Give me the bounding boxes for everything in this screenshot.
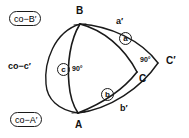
vertex-label-b: B — [76, 6, 83, 16]
boxed-label-co-b-prime-text: co−B′ — [14, 14, 36, 24]
side-label-a-prime: a′ — [116, 17, 123, 26]
angle-label-outer-90: 90° — [140, 56, 151, 63]
spherical-triangle-figure: B A C C′ a′ b′ a b c 90° 90° co−c′ co−B′… — [0, 0, 189, 138]
boxed-label-co-a-prime-text: co−A′ — [15, 115, 37, 125]
boxed-label-co-b-prime: co−B′ — [9, 11, 41, 26]
arc-outer-lower-b-prime — [78, 63, 158, 113]
side-label-b-prime: b′ — [120, 104, 128, 113]
vertex-label-a: A — [75, 120, 82, 130]
angle-label-inner-90: 90° — [72, 65, 83, 72]
arc-b-to-c — [80, 24, 137, 72]
vertex-label-c-prime: C′ — [166, 56, 176, 66]
label-co-c-prime: co−c′ — [8, 62, 31, 71]
circled-label-a: a — [119, 32, 132, 45]
circled-label-c: c — [57, 63, 70, 76]
boxed-label-co-a-prime: co−A′ — [10, 112, 42, 127]
circled-label-b: b — [101, 88, 114, 101]
vertex-label-c: C — [139, 74, 146, 84]
